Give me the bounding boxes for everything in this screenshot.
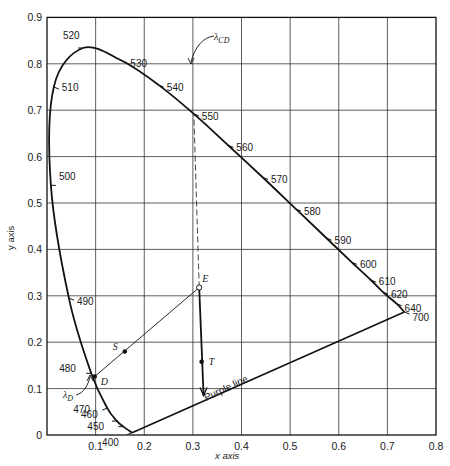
purple-line-label: Purple line [202,373,250,403]
wavelength-label: 600 [360,259,377,270]
lambda-cd-sub: CD [218,36,229,45]
wavelength-label: 700 [412,312,429,323]
lambda-cd-annotation: λCD [188,31,230,64]
y-axis-label: y axis [5,225,16,250]
x-tick: 0.8 [429,440,444,452]
wavelength-label: 520 [63,30,80,41]
point-s [123,349,128,354]
wavelength-label: 550 [202,111,219,122]
y-tick: 0.3 [27,290,42,302]
y-tick: 0.9 [27,11,42,23]
wavelength-label: 610 [379,276,396,287]
y-tick-labels: 00.10.20.30.40.50.60.70.80.9 [27,11,42,441]
wavelength-label: 570 [271,174,288,185]
wavelength-tick [54,87,59,89]
wavelength-label: 500 [59,171,76,182]
wavelength-label: 540 [167,82,184,93]
wavelength-label: 480 [59,363,76,374]
wavelength-label: 530 [130,58,147,69]
wavelength-label: 580 [304,206,321,217]
svg-text:λCD: λCD [213,31,230,45]
dashed-line-e-to-lambda-cd [194,114,199,288]
wavelength-label: 510 [62,82,79,93]
construction-lines [95,114,207,396]
y-tick: 0.7 [27,104,42,116]
x-tick: 0.3 [186,440,201,452]
x-tick: 0.1 [88,440,103,452]
x-tick: 0.2 [137,440,152,452]
gridlines [47,17,436,435]
x-tick: 0.5 [283,440,298,452]
wavelength-label: 490 [77,296,94,307]
wavelength-label: 400 [102,437,119,448]
y-tick: 0 [36,429,42,441]
wavelength-label: 470 [73,404,90,415]
x-tick: 0.6 [331,440,346,452]
x-axis-label: x axis [214,450,240,461]
wavelength-tick [102,408,107,410]
x-tick-labels: 0.10.20.30.40.50.60.70.8 [88,440,443,452]
arrow-line-e-through-t [199,287,203,395]
lambda-d-sub: D [66,394,73,403]
point-label-t: T [209,356,216,367]
y-tick: 0.2 [27,336,42,348]
point-e [197,285,202,290]
chromaticity-diagram: 00.10.20.30.40.50.60.70.80.9 0.10.20.30.… [0,0,450,466]
point-d [92,374,97,379]
point-label-d: D [100,376,109,387]
y-tick: 0.4 [27,243,42,255]
point-label-s: S [113,341,118,352]
chart-svg: 00.10.20.30.40.50.60.70.80.9 0.10.20.30.… [0,0,450,466]
wavelength-label: 450 [87,421,104,432]
wavelength-label: 620 [391,289,408,300]
svg-text:λD: λD [62,389,73,403]
y-tick: 0.5 [27,197,42,209]
wavelength-label: 560 [236,142,253,153]
x-tick: 0.7 [380,440,395,452]
point-label-e: E [201,273,208,284]
y-tick: 0.1 [27,383,42,395]
y-tick: 0.6 [27,151,42,163]
point-t [199,359,204,364]
wavelength-label: 590 [335,235,352,246]
chart-points: ESDT [92,273,215,386]
y-tick: 0.8 [27,58,42,70]
line-e-to-d [95,287,200,376]
purple-line [132,312,404,433]
